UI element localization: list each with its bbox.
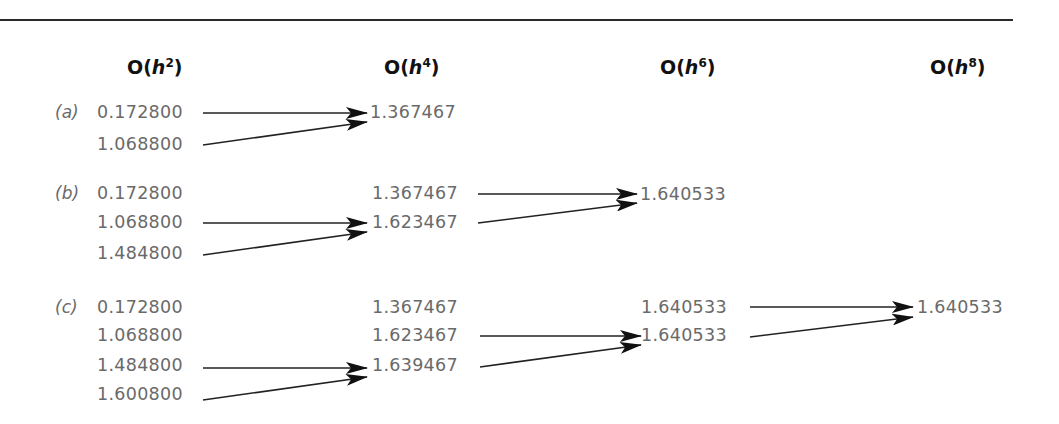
value-c-h2-3: 1.600800: [97, 384, 183, 404]
header-var: h: [152, 56, 166, 78]
value-b-h2-1: 1.068800: [97, 212, 183, 232]
arrow-icon: [203, 122, 367, 145]
value-a-h2-0: 0.172800: [97, 102, 183, 122]
column-header-h2: O(h2): [127, 56, 182, 78]
row-label-a: (a): [55, 102, 79, 122]
value-c-h2-1: 1.068800: [97, 325, 183, 345]
arrow-icon: [478, 203, 637, 223]
header-exp: 4: [422, 56, 430, 70]
column-header-h4: O(h4): [384, 56, 439, 78]
header-exp: 8: [968, 56, 976, 70]
header-close: ): [174, 56, 183, 78]
arrow-icon: [480, 345, 641, 367]
header-exp: 6: [698, 56, 706, 70]
header-exp: 2: [165, 56, 173, 70]
value-c-h4-1: 1.623467: [372, 325, 458, 345]
row-label-c: (c): [55, 297, 78, 317]
header-var: h: [955, 56, 969, 78]
row-label-b: (b): [55, 183, 79, 203]
value-b-h2-0: 0.172800: [97, 183, 183, 203]
value-c-h4-2: 1.639467: [372, 355, 458, 375]
value-b-h6-0: 1.640533: [640, 184, 726, 204]
value-c-h6-0: 1.640533: [641, 297, 727, 317]
arrow-icon: [203, 232, 367, 255]
header-base: O(: [660, 56, 685, 78]
arrow-icon: [750, 317, 913, 337]
header-close: ): [707, 56, 716, 78]
value-c-h8-0: 1.640533: [917, 297, 1003, 317]
value-c-h2-0: 0.172800: [97, 297, 183, 317]
value-c-h4-0: 1.367467: [372, 297, 458, 317]
value-a-h2-1: 1.068800: [97, 134, 183, 154]
header-base: O(: [930, 56, 955, 78]
arrow-icon: [203, 377, 367, 400]
header-base: O(: [384, 56, 409, 78]
top-rule: [0, 19, 1013, 21]
header-var: h: [685, 56, 699, 78]
value-b-h4-1: 1.623467: [372, 212, 458, 232]
header-close: ): [977, 56, 986, 78]
header-var: h: [409, 56, 423, 78]
header-base: O(: [127, 56, 152, 78]
header-close: ): [431, 56, 440, 78]
value-a-h4-0: 1.367467: [370, 102, 456, 122]
value-c-h6-1: 1.640533: [641, 325, 727, 345]
value-b-h4-0: 1.367467: [372, 183, 458, 203]
column-header-h8: O(h8): [930, 56, 985, 78]
column-header-h6: O(h6): [660, 56, 715, 78]
value-b-h2-2: 1.484800: [97, 243, 183, 263]
value-c-h2-2: 1.484800: [97, 355, 183, 375]
